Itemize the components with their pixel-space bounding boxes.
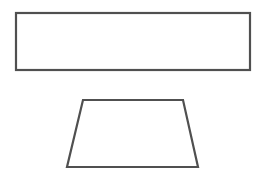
rectangle-shape — [16, 13, 250, 70]
trapezoid-shape — [67, 100, 198, 167]
diagram-canvas — [0, 0, 265, 172]
